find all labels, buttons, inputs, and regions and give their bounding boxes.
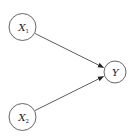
node-x1-subscript: 1 <box>26 28 30 34</box>
causal-diagram: X 1 X 2 Y <box>0 0 136 137</box>
node-x1: X 1 <box>9 14 36 41</box>
edge-x2-to-y <box>35 77 104 111</box>
node-x2-subscript: 2 <box>26 118 30 124</box>
node-x2: X 2 <box>9 104 36 131</box>
edge-x1-to-y <box>35 34 104 68</box>
node-y: Y <box>104 61 126 83</box>
